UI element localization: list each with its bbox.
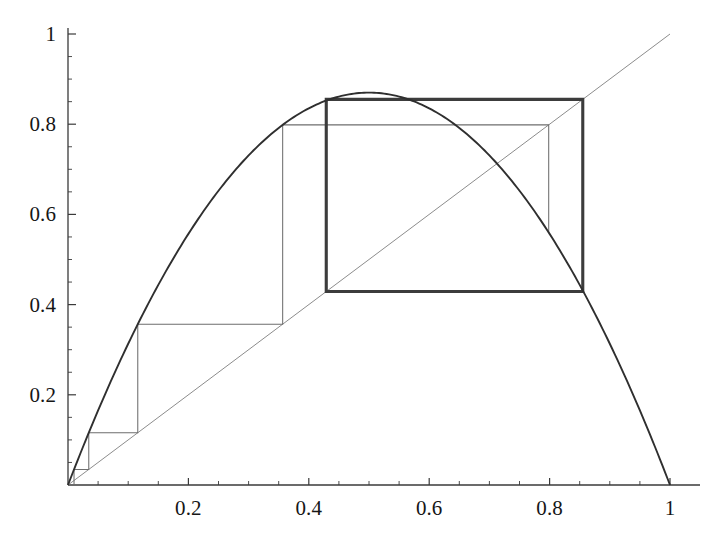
plot-canvas [0,0,713,540]
y-tick-label-1: 1 [45,22,56,47]
y-tick-label-0p4: 0.4 [29,292,56,317]
identity-line [68,34,670,485]
cobweb-plot-figure: 0.20.40.60.81 0.20.40.60.81 [0,0,713,540]
y-tick-label-0p2: 0.2 [29,382,56,407]
x-tick-label-1: 1 [665,496,676,521]
x-axis-ticks [98,478,670,485]
x-tick-label-0p6: 0.6 [416,496,443,521]
x-tick-label-0p4: 0.4 [296,496,323,521]
cobweb-orbit-transient [74,125,549,485]
axes-group [68,28,700,485]
data-group [68,34,670,485]
logistic-map-curve [68,93,670,485]
x-tick-label-0p2: 0.2 [175,496,202,521]
y-tick-label-0p8: 0.8 [29,112,56,137]
y-tick-label-0p6: 0.6 [29,202,56,227]
y-axis-ticks [68,34,76,462]
x-tick-label-0p8: 0.8 [536,496,563,521]
